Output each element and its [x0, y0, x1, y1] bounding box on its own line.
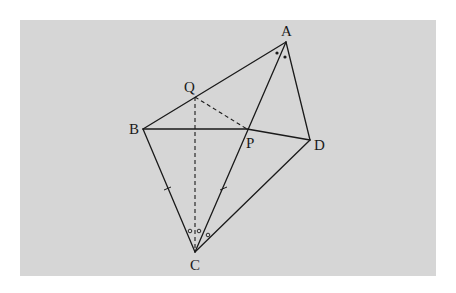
- point-label-P: P: [246, 135, 254, 151]
- point-label-Q: Q: [184, 79, 195, 95]
- segment-CD: [195, 140, 310, 252]
- angle-dot-2: [283, 55, 286, 58]
- point-label-B: B: [129, 121, 139, 137]
- segment-QP-dashed: [195, 97, 247, 129]
- point-label-A: A: [281, 23, 292, 39]
- segment-PD: [247, 129, 310, 140]
- point-label-D: D: [314, 137, 325, 153]
- segment-AD: [286, 42, 310, 140]
- angle-circle-1: [188, 229, 192, 233]
- segment-AC: [195, 42, 286, 252]
- angle-circle-3: [206, 233, 210, 237]
- angle-circle-2: [197, 229, 201, 233]
- segment-BC: [143, 129, 195, 252]
- segment-AB: [143, 42, 286, 129]
- angle-dot-1: [275, 51, 278, 54]
- point-label-C: C: [190, 257, 200, 273]
- geometry-diagram: A B C D P Q: [0, 0, 456, 293]
